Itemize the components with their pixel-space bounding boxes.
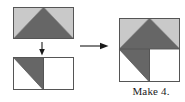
right-arrow	[80, 41, 109, 51]
right-arrow-head	[100, 43, 109, 49]
make-quantity-caption: Make 4.	[118, 85, 184, 98]
two-square-unit	[13, 57, 74, 90]
assembled-block	[119, 18, 180, 82]
down-arrow-head	[39, 49, 45, 56]
flying-geese-unit	[13, 7, 74, 39]
down-arrow	[36, 42, 48, 56]
diagram-canvas: Make 4.	[0, 0, 185, 102]
